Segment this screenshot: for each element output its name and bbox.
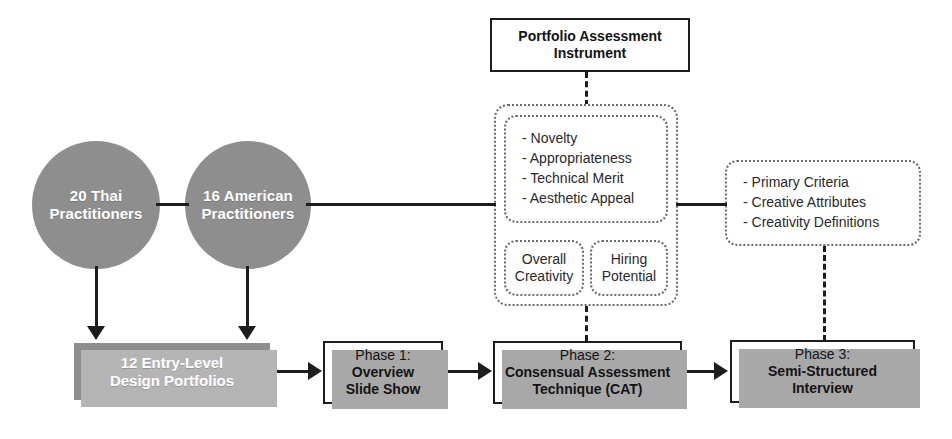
topic-item-creative-attributes: - Creative Attributes (743, 193, 919, 213)
phase-2-box: Phase 2: Consensual Assessment Technique… (493, 341, 682, 404)
connector-instrument-to-phase-2 (585, 306, 588, 341)
phase-3-box: Phase 3: Semi-Structured Interview (730, 340, 915, 403)
arrow-american-to-portfolios-head (238, 326, 256, 340)
american-practitioners-line-1: 16 American (203, 187, 293, 205)
connector-phase-1-to-phase-2 (443, 370, 479, 373)
research-method-flow-diagram: Portfolio Assessment Instrument - Novelt… (0, 0, 952, 439)
interview-topics-box: - Primary Criteria - Creative Attributes… (725, 160, 921, 246)
connector-thai-to-portfolios (95, 266, 98, 326)
connector-american-to-portfolios (246, 266, 249, 326)
hiring-potential-line-1: Hiring (611, 251, 648, 268)
design-portfolios-box: 12 Entry-Level Design Portfolios (74, 343, 270, 400)
connector-practitioners-to-instrument (306, 203, 496, 206)
connector-instrument-title-to-criteria (585, 72, 588, 106)
phase-3-heading: Phase 3: (795, 346, 850, 363)
connector-topics-to-phase-3 (823, 246, 826, 341)
overall-creativity-line-1: Overall (522, 251, 566, 268)
arrow-phase-2-to-phase-3-head (714, 362, 728, 380)
phase-1-line-1: Overview (352, 364, 414, 381)
criteria-box: - Novelty - Appropriateness - Technical … (504, 115, 668, 223)
phase-3-line-1: Semi-Structured (768, 363, 877, 380)
criteria-item-aesthetic-appeal: - Aesthetic Appeal (522, 189, 666, 209)
design-portfolios-line-1: 12 Entry-Level (121, 354, 224, 372)
phase-2-heading: Phase 2: (560, 347, 615, 364)
hiring-potential-line-2: Potential (602, 268, 656, 285)
interview-topics-list: - Primary Criteria - Creative Attributes… (727, 173, 919, 233)
criteria-list: - Novelty - Appropriateness - Technical … (506, 129, 666, 209)
overall-creativity-box: Overall Creativity (504, 240, 584, 296)
thai-practitioners-line-1: 20 Thai (70, 187, 122, 205)
american-practitioners-line-2: Practitioners (202, 205, 295, 223)
phase-2-line-1: Consensual Assessment (505, 364, 670, 381)
connector-thai-to-american (156, 203, 189, 206)
connector-instrument-to-topics (676, 203, 727, 206)
thai-practitioners-circle: 20 Thai Practitioners (32, 141, 160, 269)
phase-2-line-2: Technique (CAT) (533, 381, 643, 398)
phase-1-heading: Phase 1: (355, 347, 410, 364)
design-portfolios-line-2: Design Portfolios (110, 372, 234, 390)
overall-creativity-line-2: Creativity (515, 268, 573, 285)
instrument-title-line-1: Portfolio Assessment (518, 28, 661, 45)
topic-item-creativity-definitions: - Creativity Definitions (743, 213, 919, 233)
phase-3-line-2: Interview (792, 380, 853, 397)
american-practitioners-circle: 16 American Practitioners (185, 141, 311, 269)
criteria-item-technical-merit: - Technical Merit (522, 169, 666, 189)
instrument-title-line-2: Instrument (554, 45, 626, 62)
topic-item-primary-criteria: - Primary Criteria (743, 173, 919, 193)
arrow-thai-to-portfolios-head (87, 326, 105, 340)
arrow-portfolios-to-phase-1-head (308, 362, 322, 380)
criteria-item-novelty: - Novelty (522, 129, 666, 149)
hiring-potential-box: Hiring Potential (590, 240, 668, 296)
portfolio-assessment-instrument-box: Portfolio Assessment Instrument (490, 18, 690, 72)
phase-1-box: Phase 1: Overview Slide Show (323, 341, 443, 404)
phase-1-line-2: Slide Show (346, 381, 421, 398)
criteria-item-appropriateness: - Appropriateness (522, 149, 666, 169)
thai-practitioners-line-2: Practitioners (50, 205, 143, 223)
arrow-phase-1-to-phase-2-head (478, 362, 492, 380)
